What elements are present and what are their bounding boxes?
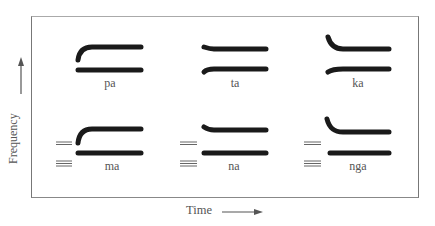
syllable-label-ka: ka — [328, 76, 388, 91]
syllable-ma-formants — [78, 129, 141, 153]
time-arrow-icon — [222, 209, 263, 215]
syllable-na-formants — [204, 127, 266, 153]
syllable-label-na: na — [204, 159, 264, 174]
syllable-ka-formants — [328, 37, 389, 72]
formant-diagram — [0, 0, 435, 226]
syllable-label-ta: ta — [205, 76, 265, 91]
nasal-murmur-na — [180, 142, 197, 166]
nasal-murmur-nga — [304, 142, 321, 166]
syllable-label-nga: nga — [328, 159, 388, 174]
syllable-pa-formants — [78, 47, 141, 70]
syllable-ta-formants — [204, 47, 266, 72]
frequency-arrow-icon — [18, 57, 24, 94]
syllable-label-pa: pa — [80, 76, 140, 91]
syllable-nga-formants — [327, 119, 389, 153]
syllable-label-ma: ma — [82, 159, 142, 174]
nasal-murmur-ma — [56, 142, 72, 166]
x-axis-label: Time — [186, 203, 212, 218]
y-axis-label: Frequency — [6, 113, 21, 164]
